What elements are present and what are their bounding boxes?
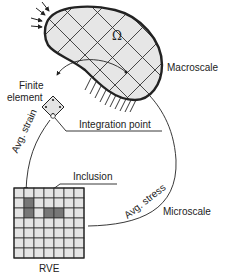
rve-matrix-cell xyxy=(24,218,34,228)
rve-matrix-cell xyxy=(54,228,64,238)
rve-matrix-cell xyxy=(74,198,84,208)
rve-matrix-cell xyxy=(34,198,44,208)
rve-matrix-cell xyxy=(64,198,74,208)
rve-matrix-cell xyxy=(64,208,74,218)
rve-matrix-cell xyxy=(24,188,34,198)
rve-matrix-cell xyxy=(14,248,24,258)
macro-domain xyxy=(20,0,180,110)
rve-inclusion-cell xyxy=(54,208,64,218)
rve-matrix-cell xyxy=(64,228,74,238)
rve-matrix-cell xyxy=(54,238,64,248)
rve-matrix-cell xyxy=(44,188,54,198)
rve-matrix-cell xyxy=(24,228,34,238)
rve-matrix-cell xyxy=(74,248,84,258)
macroscale-label: Macroscale xyxy=(167,62,218,73)
rve-inclusion-cell xyxy=(24,198,34,208)
rve-matrix-cell xyxy=(74,218,84,228)
rve-matrix-cell xyxy=(64,248,74,258)
rve-matrix-cell xyxy=(14,208,24,218)
integration-point-label: Integration point xyxy=(79,119,151,130)
rve-matrix-cell xyxy=(44,218,54,228)
rve-matrix-cell xyxy=(34,218,44,228)
rve-matrix-cell xyxy=(64,238,74,248)
domain-omega-label: Ω xyxy=(112,30,122,43)
rve-matrix-cell xyxy=(14,188,24,198)
rve-matrix-cell xyxy=(24,238,34,248)
rve-matrix-cell xyxy=(44,228,54,238)
finite-element-label-line1: Finite xyxy=(19,80,43,91)
rve-matrix-cell xyxy=(14,218,24,228)
rve-matrix-cell xyxy=(74,228,84,238)
rve-label: RVE xyxy=(39,263,59,274)
rve-matrix-cell xyxy=(34,208,44,218)
rve-matrix-cell xyxy=(14,198,24,208)
finite-element-label-line2: element xyxy=(7,92,43,103)
inclusion-label: Inclusion xyxy=(73,171,112,182)
rve-matrix-cell xyxy=(64,218,74,228)
rve-grid xyxy=(14,188,84,258)
rve-matrix-cell xyxy=(34,238,44,248)
rve-matrix-cell xyxy=(24,248,34,258)
rve-matrix-cell xyxy=(34,188,44,198)
rve-matrix-cell xyxy=(64,188,74,198)
rve-matrix-cell xyxy=(44,198,54,208)
rve-matrix-cell xyxy=(54,218,64,228)
rve-matrix-cell xyxy=(14,228,24,238)
rve-matrix-cell xyxy=(34,248,44,258)
rve-matrix-cell xyxy=(14,238,24,248)
rve-matrix-cell xyxy=(74,188,84,198)
rve-matrix-cell xyxy=(54,188,64,198)
microscale-label: Microscale xyxy=(163,206,211,217)
rve-matrix-cell xyxy=(74,208,84,218)
finite-element xyxy=(42,96,64,118)
rve-matrix-cell xyxy=(34,228,44,238)
rve-inclusion-cell xyxy=(24,208,34,218)
rve-inclusion-cell xyxy=(44,208,54,218)
rve-matrix-cell xyxy=(54,198,64,208)
rve-matrix-cell xyxy=(74,238,84,248)
rve-matrix-cell xyxy=(44,238,54,248)
rve-matrix-cell xyxy=(44,248,54,258)
rve-matrix-cell xyxy=(54,248,64,258)
